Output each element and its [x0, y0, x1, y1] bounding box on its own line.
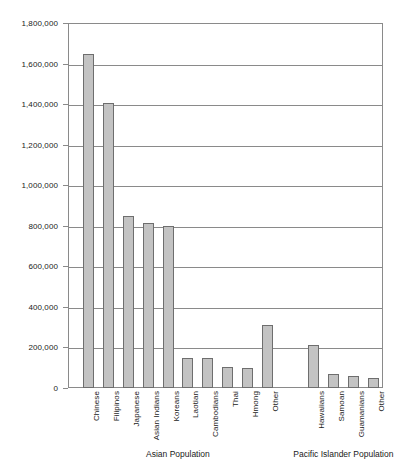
x-tick-label: Filipinos: [112, 391, 121, 421]
y-tick-label: 0: [53, 384, 58, 393]
bar: [328, 374, 339, 388]
y-tick-label: 200,000: [28, 343, 58, 352]
x-axis: ChineseFilipinosJapaneseAsian IndiansKor…: [68, 389, 383, 473]
bar: [182, 358, 193, 388]
y-tick-label: 1,400,000: [22, 100, 59, 109]
x-tick-label: Laotian: [191, 391, 200, 418]
x-tick-label: Samoan: [337, 391, 346, 421]
x-tick-label: Cambodians: [211, 391, 220, 437]
x-tick-label: Asian Indians: [152, 391, 161, 440]
y-axis: 0200,000400,000600,000800,0001,000,0001,…: [0, 0, 68, 473]
bar: [262, 325, 273, 388]
bar: [222, 367, 233, 388]
bar: [83, 54, 94, 388]
group-caption: Pacific Islander Population: [253, 449, 401, 459]
x-tick-label: Thai: [231, 391, 240, 407]
bar: [103, 103, 114, 388]
bar: [368, 378, 379, 388]
bar: [143, 223, 154, 388]
y-tick-label: 800,000: [28, 221, 58, 230]
bar: [242, 368, 253, 388]
bar: [348, 376, 359, 388]
x-tick-label: Other: [271, 391, 280, 412]
x-tick-label: Other: [377, 391, 386, 412]
x-tick-label: Guamanians: [357, 391, 366, 437]
y-tick-label: 1,000,000: [22, 181, 59, 190]
x-tick-label: Hmong: [251, 391, 260, 417]
bar: [202, 358, 213, 388]
bar: [308, 345, 319, 388]
x-tick-label: Hawaiians: [317, 391, 326, 429]
group-caption: Asian Population: [88, 449, 268, 459]
bars-layer: [68, 23, 383, 388]
x-tick-label: Koreans: [172, 391, 181, 422]
bar: [163, 226, 174, 388]
y-tick-label: 1,600,000: [22, 59, 59, 68]
x-tick-label: Chinese: [92, 391, 101, 421]
y-tick-label: 1,200,000: [22, 140, 59, 149]
x-tick-label: Japanese: [132, 391, 141, 427]
y-tick-label: 1,800,000: [22, 19, 59, 28]
bar-chart: 0200,000400,000600,000800,0001,000,0001,…: [0, 0, 401, 473]
bar: [123, 216, 134, 388]
y-tick-label: 400,000: [28, 302, 58, 311]
y-tick-label: 600,000: [28, 262, 58, 271]
